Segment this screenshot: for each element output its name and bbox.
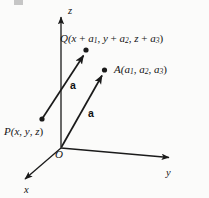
point-a-label: A(a1, a2, a3)	[114, 64, 167, 76]
page-edge-artifact	[14, 0, 23, 5]
point-a-dot	[102, 67, 107, 72]
origin-label: O	[55, 149, 63, 160]
y-axis	[61, 148, 169, 158]
point-q-dot	[83, 47, 88, 52]
point-p-label: P(x, y, z)	[4, 126, 43, 137]
y-axis-label: y	[166, 168, 171, 179]
z-axis-label: z	[68, 6, 72, 17]
vector-pq-label: a	[70, 80, 76, 91]
diagram-canvas	[0, 0, 209, 198]
x-axis-label: x	[24, 185, 29, 196]
point-p-dot	[39, 116, 44, 121]
vector-oa-label: a	[88, 108, 94, 119]
vector-diagram-figure: Q(x + a1, y + a2, z + a3) A(a1, a2, a3) …	[0, 0, 209, 198]
point-q-label: Q(x + a1, y + a2, z + a3)	[60, 33, 163, 45]
